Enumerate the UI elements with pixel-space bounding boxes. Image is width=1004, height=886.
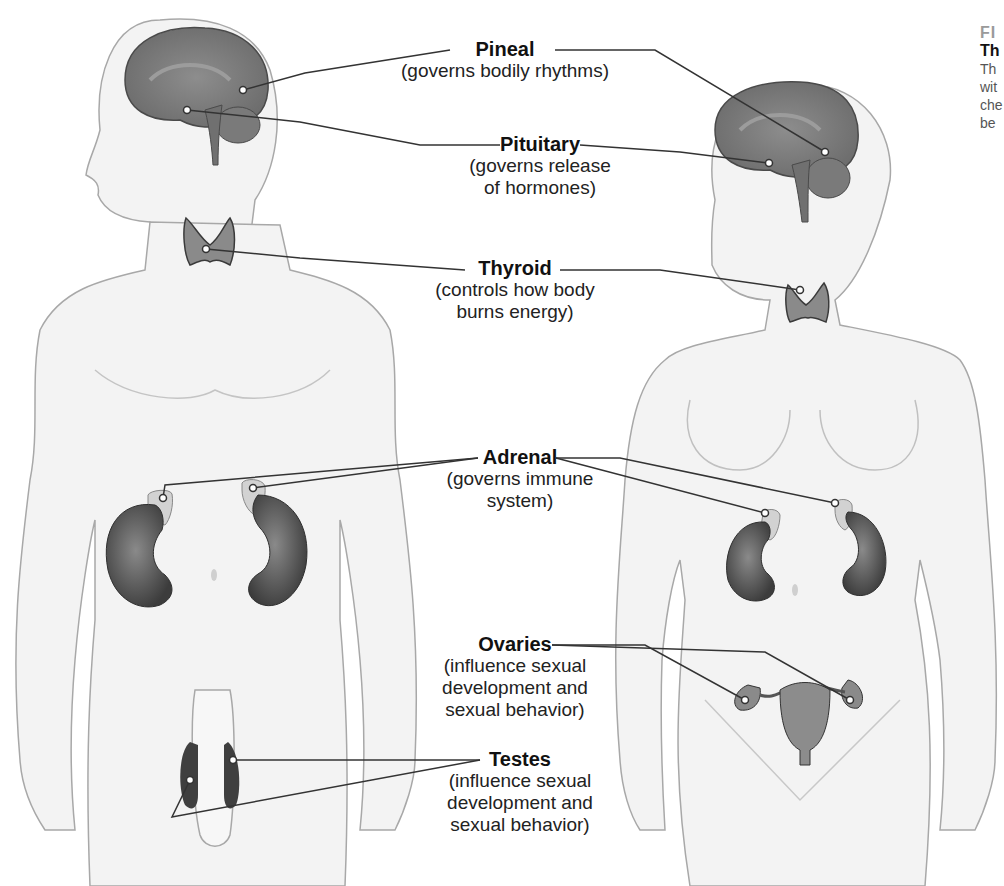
caption-line: be xyxy=(980,114,1004,132)
label-pituitary-desc-2: of hormones) xyxy=(430,177,650,199)
label-ovaries-desc-2: development and xyxy=(420,677,610,699)
label-thyroid: Thyroid (controls how body burns energy) xyxy=(410,257,620,323)
figure-number: FI xyxy=(980,24,1004,42)
label-ovaries: Ovaries (influence sexual development an… xyxy=(420,633,610,721)
label-adrenal-desc-2: system) xyxy=(420,490,620,512)
label-testes-title: Testes xyxy=(425,748,615,770)
label-adrenal-desc-1: (governs immune xyxy=(420,468,620,490)
label-testes-desc-3: sexual behavior) xyxy=(425,814,615,836)
label-testes-desc-2: development and xyxy=(425,792,615,814)
label-ovaries-desc-3: sexual behavior) xyxy=(420,699,610,721)
figure-title: Th xyxy=(980,42,1004,60)
label-pineal-title: Pineal xyxy=(400,38,610,60)
label-pituitary-title: Pituitary xyxy=(430,133,650,155)
label-ovaries-title: Ovaries xyxy=(420,633,610,655)
label-adrenal: Adrenal (governs immune system) xyxy=(420,446,620,512)
label-ovaries-desc-1: (influence sexual xyxy=(420,655,610,677)
label-thyroid-desc-1: (controls how body xyxy=(410,279,620,301)
label-pineal-desc: (governs bodily rhythms) xyxy=(400,60,610,82)
label-pituitary-desc-1: (governs release xyxy=(430,155,650,177)
caption-line: wit xyxy=(980,78,1004,96)
label-pineal: Pineal (governs bodily rhythms) xyxy=(400,38,610,82)
label-testes-desc-1: (influence sexual xyxy=(425,770,615,792)
label-thyroid-desc-2: burns energy) xyxy=(410,301,620,323)
label-thyroid-title: Thyroid xyxy=(410,257,620,279)
label-testes: Testes (influence sexual development and… xyxy=(425,748,615,836)
label-pituitary: Pituitary (governs release of hormones) xyxy=(430,133,650,199)
caption-line: Th xyxy=(980,60,1004,78)
figure-caption: FI Th Th wit che be xyxy=(980,24,1004,132)
caption-line: che xyxy=(980,96,1004,114)
label-adrenal-title: Adrenal xyxy=(420,446,620,468)
